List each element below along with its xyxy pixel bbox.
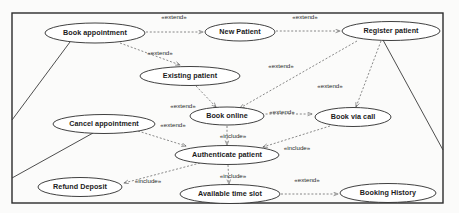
use-case-label: Book via call bbox=[331, 112, 376, 121]
use-case-label: New Patient bbox=[219, 27, 261, 36]
stereotype-label-r11: «include» bbox=[220, 172, 247, 179]
use-case-label: Booking History bbox=[360, 188, 416, 197]
stereotype-label-r4: «extend» bbox=[268, 62, 294, 69]
use-case-label: Available time slot bbox=[198, 189, 262, 198]
use-case-cancel-appointment[interactable]: Cancel appointment bbox=[53, 115, 155, 134]
use-case-book-appointment[interactable]: Book appointment bbox=[45, 23, 145, 43]
stereotype-label-r12: «include» bbox=[135, 177, 162, 184]
use-case-book-online[interactable]: Book online bbox=[190, 107, 264, 125]
stereotype-label-r1: «extend» bbox=[161, 13, 187, 20]
use-case-label: Book online bbox=[206, 111, 248, 120]
use-case-label: Authenticate patient bbox=[192, 150, 263, 159]
association-line-cancel-appointment bbox=[12, 133, 93, 178]
diagram-canvas: Book appointment New Patient Register pa… bbox=[0, 0, 459, 213]
stereotype-label-r13: «extend» bbox=[294, 176, 320, 183]
association-line-book-appointment bbox=[12, 42, 70, 120]
use-case-book-via-call[interactable]: Book via call bbox=[315, 108, 391, 127]
use-case-available-time-slot[interactable]: Available time slot bbox=[180, 185, 280, 204]
use-case-label: Existing patient bbox=[163, 71, 218, 80]
stereotype-label-r6: «extend» bbox=[317, 82, 343, 89]
use-case-refund-deposit[interactable]: Refund Deposit bbox=[38, 178, 122, 197]
use-case-existing-patient[interactable]: Existing patient bbox=[140, 67, 240, 86]
stereotype-label-r3: «extend» bbox=[147, 49, 173, 56]
extend-register-patient-to-book-online bbox=[240, 41, 357, 108]
use-case-new-patient[interactable]: New Patient bbox=[205, 23, 275, 41]
use-case-diagram: Book appointment New Patient Register pa… bbox=[0, 0, 459, 213]
use-case-register-patient[interactable]: Register patient bbox=[342, 22, 440, 41]
stereotype-label-r5: «extend» bbox=[170, 102, 196, 109]
use-case-booking-history[interactable]: Booking History bbox=[340, 184, 436, 203]
extend-register-patient-to-book-via-call bbox=[356, 41, 381, 107]
stereotype-label-r2: «extend» bbox=[292, 13, 318, 20]
use-case-label: Book appointment bbox=[63, 28, 127, 37]
stereotype-label-r9: «include» bbox=[220, 132, 247, 139]
stereotype-label-r7: «extend» bbox=[269, 108, 295, 115]
extend-cancel-appointment-to-authenticate-patient bbox=[138, 131, 186, 146]
use-case-authenticate-patient[interactable]: Authenticate patient bbox=[175, 146, 279, 165]
stereotype-label-r8: «extend» bbox=[160, 121, 186, 128]
use-case-label: Register patient bbox=[363, 26, 419, 35]
association-line-register-patient bbox=[383, 40, 443, 150]
use-case-label: Refund Deposit bbox=[53, 182, 107, 191]
use-case-label: Cancel appointment bbox=[69, 119, 139, 128]
extend-existing-patient-to-book-online bbox=[196, 86, 216, 107]
stereotype-label-r10: «include» bbox=[284, 144, 311, 151]
